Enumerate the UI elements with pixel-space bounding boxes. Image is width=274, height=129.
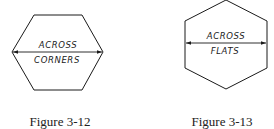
figure-3-13: ACROSS FLATS Figure 3-13 xyxy=(185,0,267,129)
caption-figure-3-13: Figure 3-13 xyxy=(191,114,252,129)
hexagon-across-corners xyxy=(12,15,103,90)
label-across: ACROSS xyxy=(206,31,245,41)
label-across: ACROSS xyxy=(38,40,77,50)
hexagon-across-flats xyxy=(185,0,267,89)
caption-figure-3-12: Figure 3-12 xyxy=(29,114,90,129)
figure-3-12: ACROSS CORNERS Figure 3-12 xyxy=(12,15,103,129)
label-corners: CORNERS xyxy=(34,55,80,65)
label-flats: FLATS xyxy=(211,46,239,56)
diagram-canvas: ACROSS CORNERS Figure 3-12 ACROSS FLATS … xyxy=(0,0,274,129)
